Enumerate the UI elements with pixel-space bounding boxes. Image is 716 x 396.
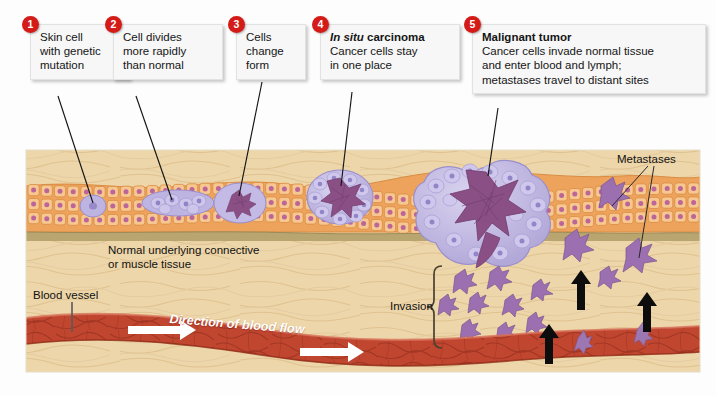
step-badge-2: 2 <box>105 16 122 33</box>
step-2-line-1: Cell divides <box>123 30 215 44</box>
callout-step-3[interactable]: 3 Cells change form <box>236 24 306 80</box>
step-badge-5: 5 <box>464 16 481 33</box>
step-4-title-rest: carcinoma <box>364 31 425 43</box>
step-2-line-2: more rapidly <box>123 44 215 58</box>
label-connective-tissue-line-1: Normal underlying connective <box>108 243 260 257</box>
step-4-line-2: in one place <box>330 58 452 72</box>
callout-step-5[interactable]: 5 Malignant tumor Cancer cells invade no… <box>472 24 706 94</box>
step-3-line-3: form <box>246 58 298 72</box>
label-metastases: Metastases <box>617 152 676 166</box>
step-4-line-1: Cancer cells stay <box>330 44 452 58</box>
callout-step-2[interactable]: 2 Cell divides more rapidly than normal <box>113 24 223 80</box>
step-5-line-2: and enter blood and lymph; <box>482 58 698 72</box>
callout-step-4[interactable]: 4 In situ carcinoma Cancer cells stay in… <box>320 24 460 80</box>
figure-canvas: 1 Skin cell with genetic mutation 2 Cell… <box>0 0 716 396</box>
label-blood-vessel: Blood vessel <box>33 288 98 302</box>
step-1-line-2: with genetic <box>40 44 122 58</box>
step-badge-4: 4 <box>312 16 329 33</box>
step-2-line-3: than normal <box>123 58 215 72</box>
label-connective-tissue-line-2: or muscle tissue <box>108 257 260 271</box>
step-3-line-1: Cells <box>246 30 298 44</box>
step-5-title: Malignant tumor <box>482 30 698 44</box>
step-5-line-3: metastases travel to distant sites <box>482 73 698 87</box>
step-1-line-3: mutation <box>40 58 122 72</box>
step-4-title-italic: In situ <box>330 31 364 43</box>
label-invasion: Invasion <box>390 299 433 313</box>
step-3-line-2: change <box>246 44 298 58</box>
label-connective-tissue: Normal underlying connective or muscle t… <box>108 243 260 271</box>
step-5-line-1: Cancer cells invade normal tissue <box>482 44 698 58</box>
step-badge-1: 1 <box>22 16 39 33</box>
step-badge-3: 3 <box>228 16 245 33</box>
step-4-title: In situ carcinoma <box>330 30 452 44</box>
